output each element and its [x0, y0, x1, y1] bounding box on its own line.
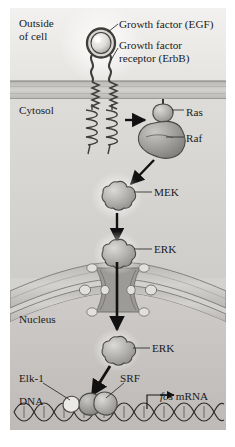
ras-protein: [153, 104, 173, 122]
egf-ligand: [91, 33, 111, 54]
plasma-membrane: [10, 81, 226, 99]
pathway-figure: Outside of cell Cytosol Nucleus Growth f…: [0, 0, 235, 447]
elk1-protein: [63, 396, 80, 412]
label-elk1: Elk-1: [19, 372, 44, 385]
label-growth-factor-receptor: Growth factor receptor (ErbB): [119, 39, 190, 64]
label-erk-nucleus: ERK: [152, 342, 174, 355]
label-egf: Growth factor (EGF): [119, 18, 213, 31]
label-mek: MEK: [154, 186, 179, 199]
label-dna: DNA: [19, 395, 43, 408]
label-erk-cytosol: ERK: [154, 243, 176, 256]
label-fos-mrna: fos mRNA: [160, 390, 208, 403]
label-fos-gene: fos: [160, 390, 173, 402]
label-srf: SRF: [120, 372, 140, 385]
label-raf: Raf: [186, 132, 202, 145]
label-cytosol: Cytosol: [19, 104, 54, 117]
label-nucleus: Nucleus: [19, 313, 56, 326]
srf-subunit-b: [94, 392, 117, 415]
label-ras: Ras: [186, 106, 203, 119]
egf-highlight: [94, 36, 100, 42]
label-outside-of-cell: Outside of cell: [19, 17, 54, 42]
diagram-body: [10, 4, 226, 430]
label-mrna: mRNA: [173, 390, 208, 402]
